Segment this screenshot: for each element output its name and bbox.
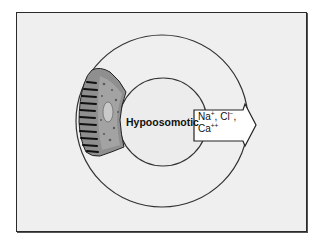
ion-line-2: Ca++ xyxy=(198,123,236,135)
lumen-label: Hypoosomotic xyxy=(126,116,199,128)
epithelial-cell-icon xyxy=(79,68,126,156)
ion-label: Na+, Cl−, Ca++ xyxy=(198,111,236,135)
